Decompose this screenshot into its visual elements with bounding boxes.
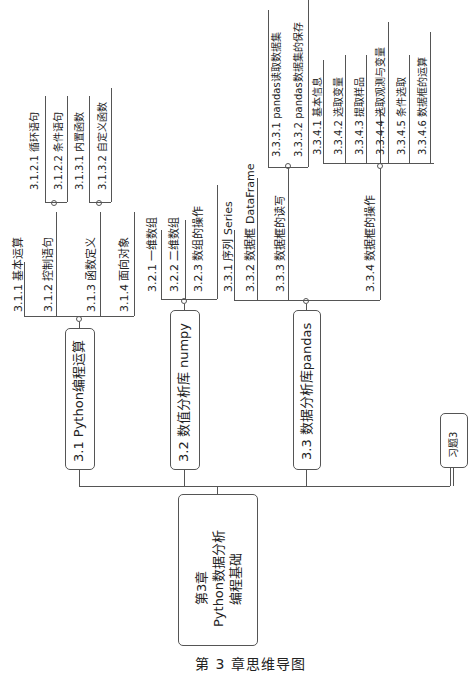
- node-3-3-1[interactable]: 3.3.1 序列 Series: [222, 201, 235, 292]
- node-3-3-4-1[interactable]: 3.3.4.1 基本信息: [311, 77, 324, 155]
- bracket: [89, 202, 111, 203]
- bracket-3-1: [24, 316, 134, 317]
- node-3-3-3-2[interactable]: 3.3.3.2 pandas数据集的保存: [292, 22, 305, 157]
- main-trunk: [79, 486, 450, 487]
- sep: [268, 10, 269, 167]
- sep: [388, 22, 389, 163]
- node-3-1-2-2[interactable]: 3.1.2.2 条件语句: [52, 112, 65, 190]
- node-3-1-4[interactable]: 3.1.4 面向对象: [118, 237, 131, 313]
- collapse-dot[interactable]: [51, 200, 57, 206]
- sep: [89, 96, 90, 202]
- branch-3-2-label: 3.2 数值分析库 numpy: [177, 323, 190, 462]
- bracket: [45, 202, 67, 203]
- bracket: [268, 167, 308, 168]
- root-line-3: 编程基础: [229, 553, 242, 605]
- trunk-tick-3-3: [306, 470, 307, 486]
- connector: [306, 304, 307, 310]
- node-3-1-3-1[interactable]: 3.1.3.1 内置函数: [73, 112, 86, 190]
- sep: [257, 178, 258, 300]
- sep: [100, 212, 101, 316]
- trunk-tick-3-2: [184, 470, 185, 486]
- root-line-1: 第3章: [195, 571, 208, 605]
- node-3-1-2[interactable]: 3.1.2 控制语句: [42, 237, 55, 313]
- node-3-1-3[interactable]: 3.1.3 函数定义: [85, 237, 98, 313]
- figure-caption: 第 3 章思维导图: [195, 653, 306, 673]
- bracket-3-3: [234, 300, 380, 301]
- node-3-1-3-2[interactable]: 3.1.3.2 自定义函数: [96, 102, 109, 190]
- node-3-3-4-6[interactable]: 3.3.4.6 数据框的运算: [416, 57, 429, 155]
- trunk-tick-3-1: [79, 470, 80, 486]
- node-3-3-4-4[interactable]: 3.3.4.4 选取观测与变量: [374, 47, 387, 155]
- sep: [430, 32, 431, 163]
- bracket-3-2: [161, 299, 217, 300]
- root-line-2: Python数据分析: [212, 530, 225, 627]
- sep: [161, 230, 162, 299]
- sep: [288, 168, 289, 300]
- node-3-3-3-1[interactable]: 3.3.3.1 pandas读取数据集: [270, 32, 283, 157]
- bracket: [323, 163, 434, 164]
- node-3-2-1[interactable]: 3.2.1 一维数组: [146, 217, 159, 293]
- connector: [184, 304, 185, 310]
- sep: [409, 55, 410, 163]
- sep: [134, 212, 135, 316]
- node-3-3-4[interactable]: 3.3.4 数据框的操作: [364, 195, 377, 293]
- node-3-2-3[interactable]: 3.2.3 数组的操作: [192, 206, 205, 293]
- node-3-3-4-5[interactable]: 3.3.4.5 条件选取: [395, 77, 408, 155]
- node-3-2-2[interactable]: 3.2.2 二维数组: [168, 217, 181, 293]
- branch-3-1-label: 3.1 Python编程运算: [72, 340, 85, 462]
- node-3-3-2[interactable]: 3.3.2 数据框 DataFrame: [244, 163, 257, 292]
- sep: [56, 212, 57, 316]
- sep: [308, 0, 309, 167]
- root-connector: [217, 486, 218, 494]
- sep: [185, 220, 186, 299]
- branch-exercise-label: 习题3: [447, 432, 460, 458]
- sep: [67, 96, 68, 202]
- node-3-3-3[interactable]: 3.3.3 数据框的读写: [274, 195, 287, 293]
- sep: [366, 55, 367, 163]
- sep: [111, 88, 112, 202]
- sep: [345, 55, 346, 163]
- sep: [217, 185, 218, 299]
- node-3-1-2-1[interactable]: 3.1.2.1 循环语句: [28, 112, 41, 190]
- node-3-3-4-3[interactable]: 3.3.4.3 提取样品: [353, 77, 366, 155]
- connector: [453, 468, 454, 486]
- connector: [79, 322, 80, 328]
- node-3-1-1[interactable]: 3.1.1 基本运算: [12, 237, 25, 313]
- sep: [45, 96, 46, 202]
- collapse-dot[interactable]: [285, 163, 291, 169]
- branch-3-3-label: 3.3 数据分析库pandas: [300, 323, 313, 460]
- node-3-3-4-2[interactable]: 3.3.4.2 选取变量: [332, 77, 345, 155]
- collapse-dot[interactable]: [96, 200, 102, 206]
